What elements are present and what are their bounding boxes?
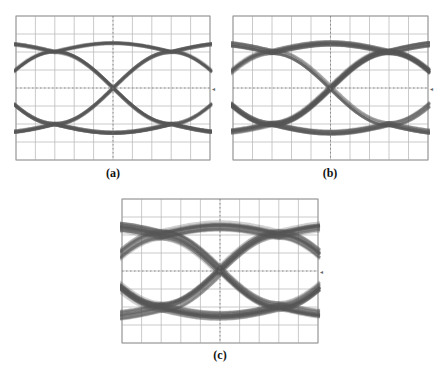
panel-label-c: (c) xyxy=(200,348,240,363)
trigger-marker-icon: ◂ xyxy=(430,86,433,92)
eye-diagram-panel-a: ◂ xyxy=(14,12,218,162)
trigger-marker-icon: ◂ xyxy=(212,86,215,92)
panel-label-b: (b) xyxy=(310,166,350,181)
trigger-marker-icon: ◂ xyxy=(320,269,323,275)
eye-diagram-panel-b: ◂ xyxy=(231,12,436,162)
panel-label-a: (a) xyxy=(93,166,133,181)
eye-diagram-panel-c: ◂ xyxy=(120,195,326,345)
